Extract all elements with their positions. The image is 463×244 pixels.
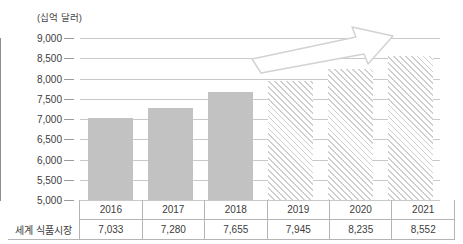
y-axis-tick-label: 8,000: [37, 73, 62, 84]
table-value-cell: 7,033: [80, 220, 142, 240]
table-header-cell: 2017: [142, 200, 204, 220]
y-axis-tick: [64, 119, 74, 120]
gridline: [80, 119, 440, 120]
table-row-label: 세계 식품시장: [8, 220, 80, 240]
y-axis-tick-label: 5,500: [37, 174, 62, 185]
y-axis-tick: [64, 99, 74, 100]
bar-2019: [268, 81, 313, 200]
table-corner-cell: [8, 200, 80, 220]
table-header-cell: 2020: [329, 200, 391, 220]
y-axis-tick: [64, 58, 74, 59]
chart-figure: (십억 달러) 9,0008,5008,0007,5007,0006,5006,…: [0, 0, 463, 244]
table-value-cell: 7,655: [205, 220, 267, 240]
gridline: [80, 139, 440, 140]
data-table: 201620172018201920202021 세계 식품시장 7,0337,…: [8, 200, 455, 240]
bar-2021: [388, 56, 433, 200]
y-axis-tick: [64, 180, 74, 181]
y-axis-tick-label: 6,500: [37, 134, 62, 145]
gridline: [80, 99, 440, 100]
y-axis-tick: [64, 79, 74, 80]
table-header-cell: 2018: [205, 200, 267, 220]
y-axis-tick-label: 6,000: [37, 154, 62, 165]
growth-trend-arrow-icon: [250, 26, 395, 74]
table-header-cell: 2021: [392, 200, 455, 220]
bar-2018: [208, 92, 253, 200]
bar-2020: [328, 69, 373, 200]
gridline: [80, 79, 440, 80]
y-axis-tick: [64, 38, 74, 39]
y-axis-tick-label: 7,000: [37, 114, 62, 125]
gridline: [80, 180, 440, 181]
table-value-cell: 7,280: [142, 220, 204, 240]
bar-2016: [88, 118, 133, 200]
gridline: [80, 160, 440, 161]
table-value-cell: 8,552: [392, 220, 455, 240]
y-axis-tick: [64, 160, 74, 161]
bar-2017: [148, 108, 193, 200]
y-axis-tick: [64, 139, 74, 140]
table-header-cell: 2016: [80, 200, 142, 220]
table-header-row: 201620172018201920202021: [8, 200, 455, 220]
table-row: 세계 식품시장 7,0337,2807,6557,9458,2358,552: [8, 220, 455, 240]
y-axis-tick-label: 9,000: [37, 33, 62, 44]
y-axis-tick-label: 7,500: [37, 93, 62, 104]
y-axis-tick-label: 8,500: [37, 53, 62, 64]
table-value-cell: 8,235: [329, 220, 391, 240]
table-header-cell: 2019: [267, 200, 329, 220]
table-value-cell: 7,945: [267, 220, 329, 240]
